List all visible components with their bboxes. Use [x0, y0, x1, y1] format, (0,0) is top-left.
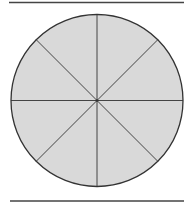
divided-circle-figure: [0, 0, 194, 204]
center-point: [96, 99, 99, 102]
